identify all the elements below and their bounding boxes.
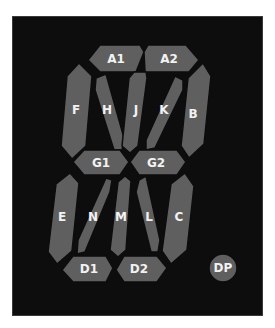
segment-d1: D1 xyxy=(62,256,113,282)
segment-f-label: F xyxy=(72,103,80,117)
segment-h-label: H xyxy=(102,103,112,117)
segment-f: F xyxy=(61,63,92,159)
segment-c: C xyxy=(162,173,194,264)
segment-n-label: N xyxy=(88,210,98,224)
segment-e-label: E xyxy=(58,210,66,224)
segment-a1: A1 xyxy=(88,45,144,72)
segment-j: J xyxy=(122,72,147,153)
segment-a2-label: A2 xyxy=(160,52,178,66)
sixteen-segment-display: A1 A2 F H J K B G1 G2 E N xyxy=(0,0,275,328)
segment-h: H xyxy=(95,74,124,150)
segment-g2: G2 xyxy=(130,150,186,175)
segment-e: E xyxy=(48,173,79,264)
segment-k: K xyxy=(146,76,183,150)
segment-j-label: J xyxy=(133,103,138,117)
segment-c-label: C xyxy=(175,210,184,224)
segment-m: M xyxy=(110,176,131,257)
segment-d2: D2 xyxy=(116,256,167,282)
segment-d2-label: D2 xyxy=(130,262,148,276)
segment-l-label: L xyxy=(145,210,153,224)
segment-dp: DP xyxy=(209,254,237,282)
segment-a2: A2 xyxy=(144,45,199,72)
segment-d1-label: D1 xyxy=(80,262,98,276)
segment-b-label: B xyxy=(188,107,197,121)
segment-k-label: K xyxy=(159,103,169,117)
segment-g2-label: G2 xyxy=(147,156,165,170)
segment-g1: G1 xyxy=(73,150,129,175)
segment-m-label: M xyxy=(115,210,127,224)
segment-l: L xyxy=(136,176,160,252)
segment-b: B xyxy=(181,63,211,158)
segment-a1-label: A1 xyxy=(107,52,125,66)
segment-n: N xyxy=(77,178,112,254)
segment-g1-label: G1 xyxy=(92,156,110,170)
segment-dp-label: DP xyxy=(214,261,233,275)
